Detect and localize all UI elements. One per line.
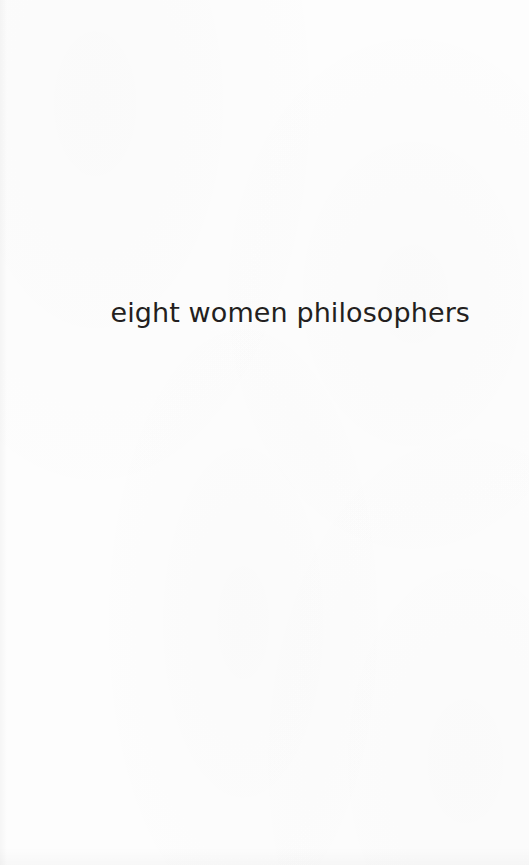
page-gutter-shadow xyxy=(0,0,7,865)
book-page: eight women philosophers xyxy=(0,0,529,865)
page-title: eight women philosophers xyxy=(110,297,470,329)
half-title-block: eight women philosophers xyxy=(0,297,470,329)
page-bottom-scan-edge xyxy=(0,847,529,865)
